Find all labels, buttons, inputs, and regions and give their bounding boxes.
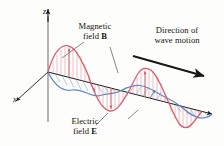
em-wave-figure: z x Magnetic field B Direction of wave m… bbox=[0, 0, 224, 146]
leader-electric-2 bbox=[128, 110, 138, 119]
x-axis bbox=[16, 72, 48, 101]
wave-direction-label-line2: wave motion bbox=[138, 36, 216, 46]
magnetic-field-label-prefix: field bbox=[83, 31, 101, 41]
wave-motion-arrow bbox=[133, 56, 204, 76]
magnetic-field-label-line2: field B bbox=[64, 32, 126, 42]
magnetic-field-label: Magnetic field B bbox=[64, 22, 126, 41]
electric-field-hatching bbox=[53, 46, 199, 127]
magnetic-field-symbol: B bbox=[101, 31, 107, 41]
leader-lines bbox=[62, 42, 138, 125]
electric-field-label-line2: field E bbox=[55, 127, 115, 137]
wave-direction-label: Direction of wave motion bbox=[138, 26, 216, 45]
magnetic-field-curve bbox=[48, 72, 212, 118]
z-axis-label: z bbox=[43, 7, 46, 16]
leader-magnetic-2 bbox=[110, 47, 118, 73]
electric-field-label: Electric field E bbox=[55, 117, 115, 136]
electric-field-symbol: E bbox=[91, 126, 97, 136]
electric-field-label-prefix: field bbox=[73, 126, 91, 136]
propagation-axis bbox=[48, 72, 212, 114]
x-axis-label: x bbox=[13, 95, 17, 104]
